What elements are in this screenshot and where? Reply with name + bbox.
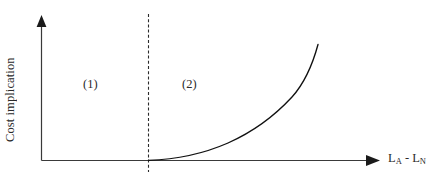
x-axis-arrowhead	[366, 155, 380, 166]
chart-canvas	[0, 0, 431, 181]
x-axis-label-second-symbol: L	[412, 151, 420, 165]
x-axis-label-first-symbol: L	[388, 151, 396, 165]
cost-implication-curve	[149, 45, 319, 161]
y-axis-arrowhead	[37, 15, 47, 27]
region-1-label: (1)	[83, 78, 98, 91]
x-axis-label-operator: -	[402, 151, 412, 165]
x-axis-label-second-subscript: N	[420, 156, 426, 166]
x-axis-label-first-subscript: A	[396, 156, 402, 166]
cost-implication-figure: Cost implication LA - LN (1) (2)	[0, 0, 431, 181]
y-axis-label: Cost implication	[4, 52, 22, 148]
region-2-label: (2)	[182, 78, 197, 91]
x-axis-label: LA - LN	[388, 152, 426, 165]
